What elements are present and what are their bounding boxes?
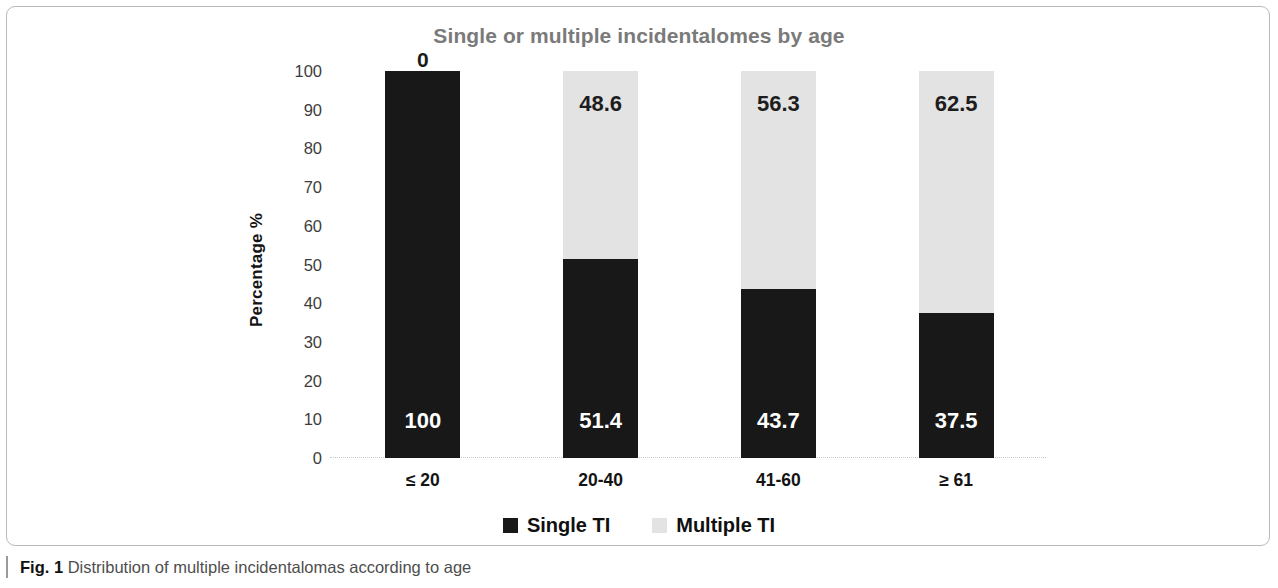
legend-label: Single TI xyxy=(527,514,610,537)
legend-item-single-ti[interactable]: Single TI xyxy=(503,514,610,537)
bar-value-label: 56.3 xyxy=(757,93,800,115)
bar-value-label: 37.5 xyxy=(935,410,978,432)
y-axis-tick: 100 xyxy=(262,62,322,81)
bar-group[interactable]: 1000 xyxy=(385,71,460,458)
bar-value-label: 0 xyxy=(417,49,429,70)
bar-value-label: 48.6 xyxy=(579,93,622,115)
bar-segment-multiple-ti[interactable]: 48.6 xyxy=(563,71,638,259)
bar-group[interactable]: 37.562.5 xyxy=(919,71,994,458)
bar-segment-single-ti[interactable]: 43.7 xyxy=(741,289,816,458)
y-axis-tick: 50 xyxy=(262,255,322,274)
chart-title: Single or multiple incidentalomes by age xyxy=(0,24,1278,48)
y-axis-tick: 10 xyxy=(262,410,322,429)
bar-group[interactable]: 43.756.3 xyxy=(741,71,816,458)
figure-caption-label: Fig. 1 xyxy=(20,558,63,576)
figure-caption-text: Distribution of multiple incidentalomas … xyxy=(68,558,472,576)
bar-value-label: 43.7 xyxy=(757,410,800,432)
plot-area: 100051.448.643.756.337.562.5 xyxy=(334,71,1045,458)
x-axis-tick: 20-40 xyxy=(526,470,676,491)
bar-segment-multiple-ti[interactable]: 62.5 xyxy=(919,71,994,313)
x-axis-tick: ≥ 61 xyxy=(881,470,1031,491)
y-axis-tick: 0 xyxy=(262,449,322,468)
x-axis-tick-labels: ≤ 2020-4041-60≥ 61 xyxy=(334,470,1045,498)
legend-label: Multiple TI xyxy=(676,514,775,537)
y-axis-tick: 90 xyxy=(262,100,322,119)
bar-segment-single-ti[interactable]: 37.5 xyxy=(919,313,994,458)
bar-segment-single-ti[interactable]: 100 xyxy=(385,71,460,458)
y-axis-tick: 80 xyxy=(262,139,322,158)
y-axis-tick: 60 xyxy=(262,216,322,235)
x-axis-tick: 41-60 xyxy=(703,470,853,491)
y-axis-tick: 70 xyxy=(262,178,322,197)
y-axis-tick: 40 xyxy=(262,294,322,313)
x-axis-tick: ≤ 20 xyxy=(348,470,498,491)
bar-group[interactable]: 51.448.6 xyxy=(563,71,638,458)
legend-swatch xyxy=(503,518,518,533)
bar-segment-single-ti[interactable]: 51.4 xyxy=(563,259,638,458)
y-axis-tick: 20 xyxy=(262,371,322,390)
bar-value-label: 100 xyxy=(405,410,442,432)
y-axis-tick-labels: 1009080706050403020100 xyxy=(258,71,322,458)
y-axis-tick: 30 xyxy=(262,332,322,351)
legend-swatch xyxy=(652,518,667,533)
bar-value-label: 51.4 xyxy=(579,410,622,432)
bar-value-label: 62.5 xyxy=(935,93,978,115)
figure-caption: Fig. 1 Distribution of multiple incident… xyxy=(6,556,1270,578)
legend-item-multiple-ti[interactable]: Multiple TI xyxy=(652,514,775,537)
bar-segment-multiple-ti[interactable]: 56.3 xyxy=(741,71,816,289)
chart-legend: Single TIMultiple TI xyxy=(0,514,1278,537)
